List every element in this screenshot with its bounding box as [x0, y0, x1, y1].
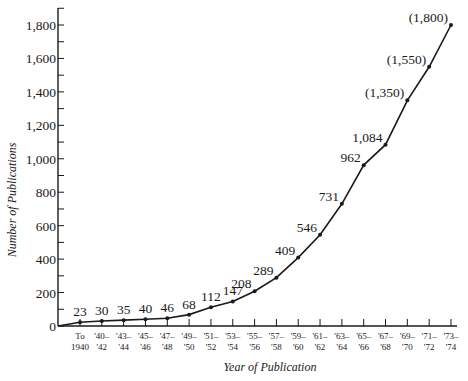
x-tick-label: '67– [378, 331, 394, 341]
data-series: 2330354046681121472082894095467319621,08… [58, 10, 453, 326]
y-axis: 02004006008001,0001,2001,4001,6001,800 [26, 8, 64, 334]
x-tick-label: '61– [312, 331, 328, 341]
y-tick-label: 200 [36, 286, 57, 301]
x-tick-label: '44 [118, 342, 129, 352]
data-label: (1,550) [387, 52, 426, 67]
data-point [427, 65, 431, 69]
x-tick-label: '60 [293, 342, 304, 352]
data-point [187, 313, 191, 317]
data-point [209, 305, 213, 309]
x-tick-label: '57– [269, 331, 285, 341]
data-point [231, 299, 235, 303]
x-tick-label: 1940 [71, 342, 90, 352]
data-point [143, 317, 147, 321]
data-point [100, 319, 104, 323]
data-label: 409 [275, 243, 296, 258]
x-tick-label: '46 [140, 342, 151, 352]
data-label: 35 [117, 302, 131, 317]
y-tick-label: 1,000 [26, 152, 57, 167]
data-point [274, 276, 278, 280]
x-tick-label: '45– [138, 331, 154, 341]
data-label: 731 [319, 189, 339, 204]
y-tick-label: 600 [36, 219, 57, 234]
data-point [340, 202, 344, 206]
x-tick-label: '52 [206, 342, 217, 352]
x-tick-label: '69– [400, 331, 416, 341]
data-label: 40 [139, 301, 153, 316]
data-label: 30 [95, 303, 109, 318]
x-tick-label: '70 [402, 342, 413, 352]
data-point [165, 316, 169, 320]
y-tick-label: 400 [36, 252, 57, 267]
x-tick-label: '50 [184, 342, 195, 352]
y-tick-label: 1,200 [26, 118, 57, 133]
line-chart: 02004006008001,0001,2001,4001,6001,800 T… [0, 0, 468, 381]
x-tick-label: '53– [225, 331, 241, 341]
y-tick-label: 1,600 [26, 51, 57, 66]
data-label: 46 [161, 300, 175, 315]
x-tick-label: '55– [247, 331, 263, 341]
y-tick-label: 1,800 [26, 18, 57, 33]
x-axis-title: Year of Publication [224, 360, 317, 374]
data-label: 112 [201, 289, 221, 304]
x-tick-label: '56 [249, 342, 260, 352]
data-label: 962 [340, 150, 360, 165]
data-label: 289 [253, 263, 274, 278]
y-tick-label: 1,400 [26, 85, 57, 100]
series-line [58, 25, 451, 326]
data-label: 23 [73, 304, 87, 319]
x-tick-label: '72 [424, 342, 435, 352]
data-point [318, 233, 322, 237]
x-tick-label: '58 [271, 342, 282, 352]
data-point [253, 289, 257, 293]
x-tick-label: To [75, 331, 85, 341]
x-tick-label: '74 [446, 342, 457, 352]
y-axis-title: Number of Publications [5, 142, 19, 258]
x-tick-label: '64 [337, 342, 348, 352]
x-tick-label: '54 [227, 342, 238, 352]
x-tick-label: '48 [162, 342, 173, 352]
x-tick-label: '40– [94, 331, 110, 341]
data-point [362, 163, 366, 167]
data-point [449, 23, 453, 27]
data-label: 208 [231, 276, 252, 291]
x-tick-label: '42 [97, 342, 108, 352]
x-tick-label: '71– [422, 331, 438, 341]
x-tick-label: '73– [443, 331, 459, 341]
y-tick-label: 800 [36, 185, 57, 200]
data-label: (1,350) [365, 85, 404, 100]
data-label: (1,800) [409, 10, 448, 25]
x-tick-label: '68 [380, 342, 391, 352]
data-label: 68 [182, 297, 196, 312]
x-tick-label: '65– [356, 331, 372, 341]
data-label: 546 [297, 220, 318, 235]
x-tick-label: '66 [358, 342, 369, 352]
data-point [122, 318, 126, 322]
data-point [78, 320, 82, 324]
data-label: 1,084 [352, 130, 383, 145]
data-point [384, 143, 388, 147]
x-tick-label: '63– [334, 331, 350, 341]
x-tick-label: '62 [315, 342, 326, 352]
data-point [296, 256, 300, 260]
x-tick-label: '47– [160, 331, 176, 341]
x-tick-label: '43– [116, 331, 132, 341]
y-tick-label: 0 [49, 319, 56, 334]
x-axis: To1940'40–'42'43–'44'45–'46'47–'48'49–'5… [58, 319, 459, 352]
x-tick-label: '49– [182, 331, 198, 341]
data-point [405, 98, 409, 102]
x-tick-label: '59– [291, 331, 307, 341]
x-tick-label: '51– [203, 331, 219, 341]
